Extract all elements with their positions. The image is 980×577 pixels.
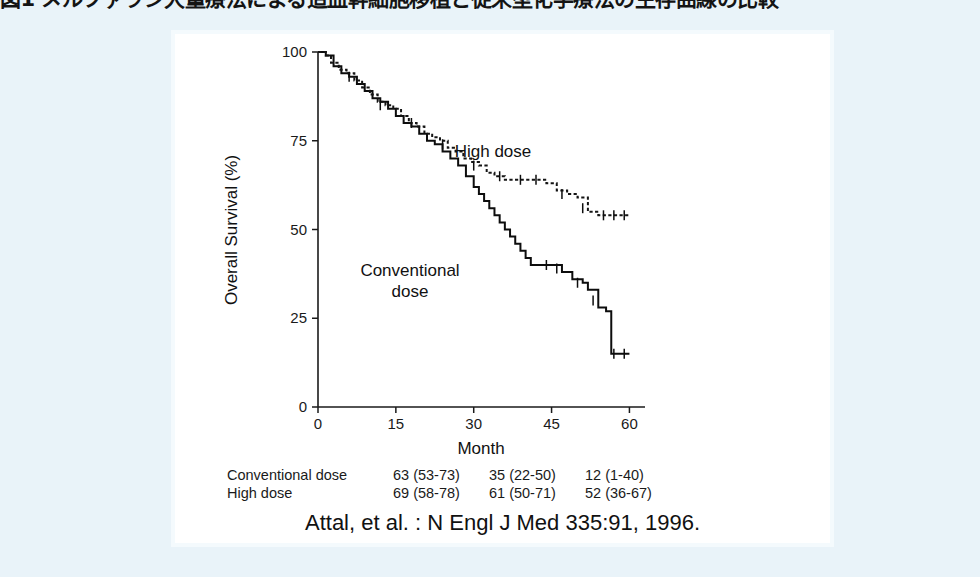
risk-cell: 61 (50-71) bbox=[489, 484, 585, 502]
table-row: High dose 69 (58-78) 61 (50-71) 52 (36-6… bbox=[175, 484, 830, 502]
high-dose-curve bbox=[318, 52, 629, 215]
y-tick-label: 100 bbox=[282, 43, 307, 60]
y-tick-label: 0 bbox=[299, 398, 307, 415]
y-tick-label: 50 bbox=[290, 221, 307, 238]
x-axis-ticks: 015304560 bbox=[314, 407, 638, 432]
x-tick-label: 30 bbox=[465, 415, 482, 432]
risk-row-label: Conventional dose bbox=[175, 466, 393, 484]
risk-cell: 52 (36-67) bbox=[585, 484, 681, 502]
conventional-dose-censor-marks bbox=[546, 260, 624, 359]
y-axis-ticks: 0255075100 bbox=[282, 43, 318, 415]
risk-cell: 69 (58-78) bbox=[393, 484, 489, 502]
x-tick-label: 45 bbox=[543, 415, 560, 432]
survival-plot: 0255075100 015304560 High dose Conventio… bbox=[175, 34, 830, 474]
slide-title: 図1 メルファラン大量療法による造血幹細胞移植と従来型化学療法の生存曲線の比較 bbox=[0, 0, 980, 14]
risk-cell: 63 (53-73) bbox=[393, 466, 489, 484]
x-tick-label: 15 bbox=[388, 415, 405, 432]
y-tick-label: 25 bbox=[290, 309, 307, 326]
y-tick-label: 75 bbox=[290, 132, 307, 149]
y-axis-title: Overall Survival (%) bbox=[222, 155, 241, 305]
conventional-dose-label-line1: Conventional bbox=[360, 261, 459, 280]
high-dose-label: High dose bbox=[455, 142, 532, 161]
figure-panel: 0255075100 015304560 High dose Conventio… bbox=[175, 34, 830, 543]
risk-cell: 35 (22-50) bbox=[489, 466, 585, 484]
conventional-dose-label-line2: dose bbox=[392, 282, 429, 301]
x-axis-title: Month bbox=[457, 439, 504, 458]
risk-row-label: High dose bbox=[175, 484, 393, 502]
risk-cell: 12 (1-40) bbox=[585, 466, 681, 484]
x-tick-label: 60 bbox=[621, 415, 638, 432]
table-row: Conventional dose 63 (53-73) 35 (22-50) … bbox=[175, 466, 830, 484]
citation-text: Attal, et al. : N Engl J Med 335:91, 199… bbox=[175, 510, 830, 536]
numbers-at-risk-table: Conventional dose 63 (53-73) 35 (22-50) … bbox=[175, 466, 830, 502]
x-tick-label: 0 bbox=[314, 415, 322, 432]
conventional-dose-curve bbox=[318, 52, 629, 354]
